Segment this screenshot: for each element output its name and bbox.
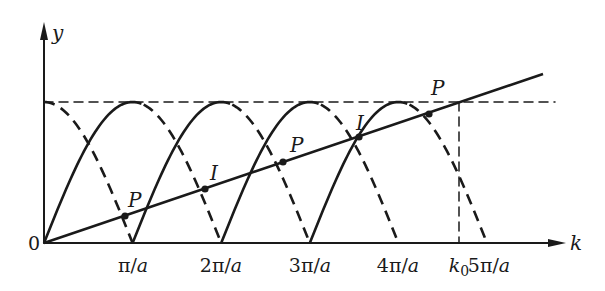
point-label-i: I <box>355 111 365 135</box>
point-label-p: P <box>430 76 445 100</box>
diagram-canvas: yk0π/a2π/a3π/a4π/ak05π/aPIPIP <box>0 0 605 291</box>
arch-4-dashed <box>409 105 487 243</box>
straight-line <box>44 74 543 243</box>
point-label-p: P <box>127 188 142 212</box>
point-label-p: P <box>289 133 304 157</box>
arch-2-dashed <box>232 105 310 243</box>
y-axis-arrow-icon <box>40 22 48 40</box>
intersection-point-p <box>425 110 432 117</box>
intersection-point-p <box>121 212 128 219</box>
intersection-point-i <box>201 185 208 192</box>
tick-label: 2π/a <box>200 254 242 276</box>
y-axis-label: y <box>51 21 64 45</box>
x-axis-arrow-icon <box>548 239 566 247</box>
tick-label-k0: k0 <box>449 254 469 279</box>
tick-label: 5π/a <box>468 254 510 276</box>
origin-label: 0 <box>28 232 40 254</box>
tick-label: 4π/a <box>377 254 419 276</box>
arch-3-solid <box>221 102 318 243</box>
point-label-i: I <box>209 161 219 185</box>
tick-label: π/a <box>118 254 148 276</box>
arch-1-solid <box>44 102 141 243</box>
tick-label: 3π/a <box>289 254 331 276</box>
intersection-point-p <box>279 158 286 165</box>
x-axis-label: k <box>570 231 582 255</box>
arch-0-dashed <box>44 102 133 243</box>
